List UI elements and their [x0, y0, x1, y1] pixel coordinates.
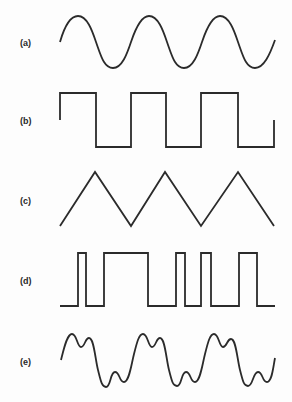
harmonic-wave	[61, 334, 275, 387]
waveform-canvas	[0, 0, 292, 402]
pwm-wave	[60, 253, 275, 306]
waveform-figure: (a) (b) (c) (d) (e)	[0, 0, 292, 402]
square-wave	[60, 93, 274, 147]
sine-wave	[60, 16, 275, 68]
triangle-wave	[60, 172, 274, 226]
